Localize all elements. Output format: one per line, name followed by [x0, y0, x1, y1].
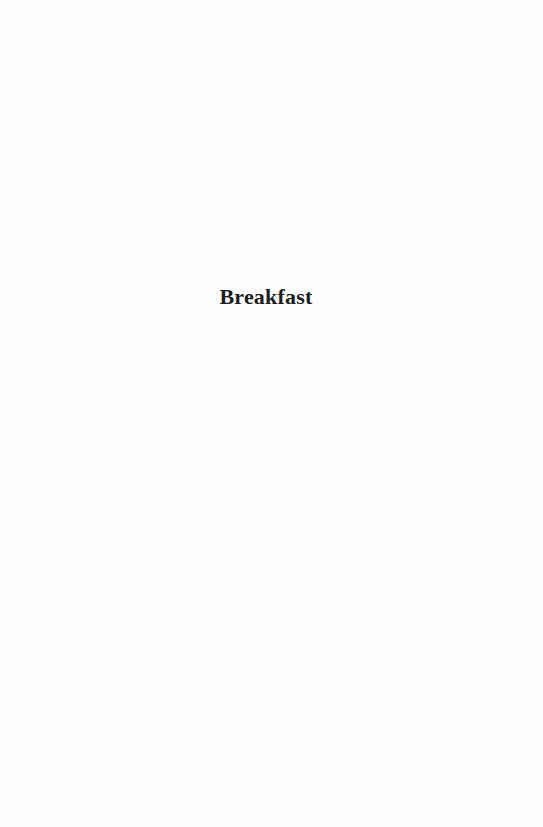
book-page: Breakfast	[0, 0, 543, 827]
section-title: Breakfast	[0, 284, 532, 310]
